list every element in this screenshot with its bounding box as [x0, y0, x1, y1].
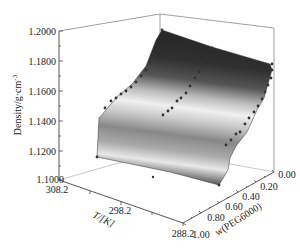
t-tick-label: 298.2	[109, 205, 132, 216]
t-axis: 308.2 298.2 288.2 T/[K]	[46, 180, 195, 239]
z-axis: 1.2000 1.1800 1.1600 1.1400 1.1200 1.100…	[11, 26, 64, 185]
z-tick-label: 1.1600	[29, 86, 57, 97]
z-tick-label: 1.2000	[29, 26, 57, 37]
z-tick-label: 1.1200	[29, 146, 57, 157]
z-tick-label: 1.1800	[29, 56, 57, 67]
frame-top-right	[160, 14, 274, 28]
z-tick-label: 1.1400	[29, 116, 57, 127]
density-surface	[97, 30, 272, 185]
w-tick-label: 1.00	[192, 229, 210, 240]
z-axis-title: Density/g·cm-3	[11, 74, 23, 135]
chart-3d-surface: 1.2000 1.1800 1.1600 1.1400 1.1200 1.100…	[0, 0, 300, 250]
chart-svg: 1.2000 1.1800 1.1600 1.1400 1.1200 1.100…	[0, 0, 300, 250]
w-tick-label: 0.00	[278, 169, 296, 180]
t-tick-label: 288.2	[172, 228, 195, 239]
w-tick-label: 0.80	[207, 212, 225, 223]
frame-top-left	[59, 14, 160, 31]
w-tick-label: 0.20	[260, 181, 278, 192]
t-tick-label: 308.2	[46, 184, 69, 195]
